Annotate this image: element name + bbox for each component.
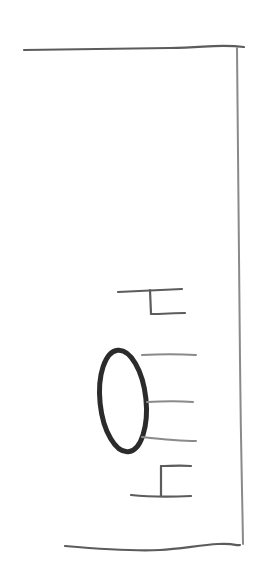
profile-card bbox=[95, 348, 196, 454]
wireframe-sketch bbox=[0, 0, 268, 583]
frame-bottom-edge bbox=[65, 544, 240, 550]
frame-top-edge bbox=[24, 46, 244, 50]
screen-frame bbox=[24, 46, 244, 551]
frame-right-edge bbox=[237, 48, 243, 544]
text-line-2 bbox=[147, 401, 193, 402]
header-bracket bbox=[118, 289, 185, 314]
header-bracket-bottom-line bbox=[151, 313, 185, 314]
header-bracket-stem bbox=[150, 290, 151, 314]
avatar-placeholder bbox=[95, 348, 151, 454]
text-line-1 bbox=[142, 354, 196, 355]
footer-bracket bbox=[131, 466, 191, 497]
text-line-3 bbox=[142, 437, 196, 441]
